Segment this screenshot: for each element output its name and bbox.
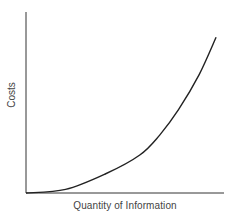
x-axis-label: Quantity of Information — [26, 200, 224, 211]
cost-curve — [26, 37, 216, 193]
chart-canvas — [0, 0, 236, 220]
y-axis-label: Costs — [6, 82, 17, 108]
